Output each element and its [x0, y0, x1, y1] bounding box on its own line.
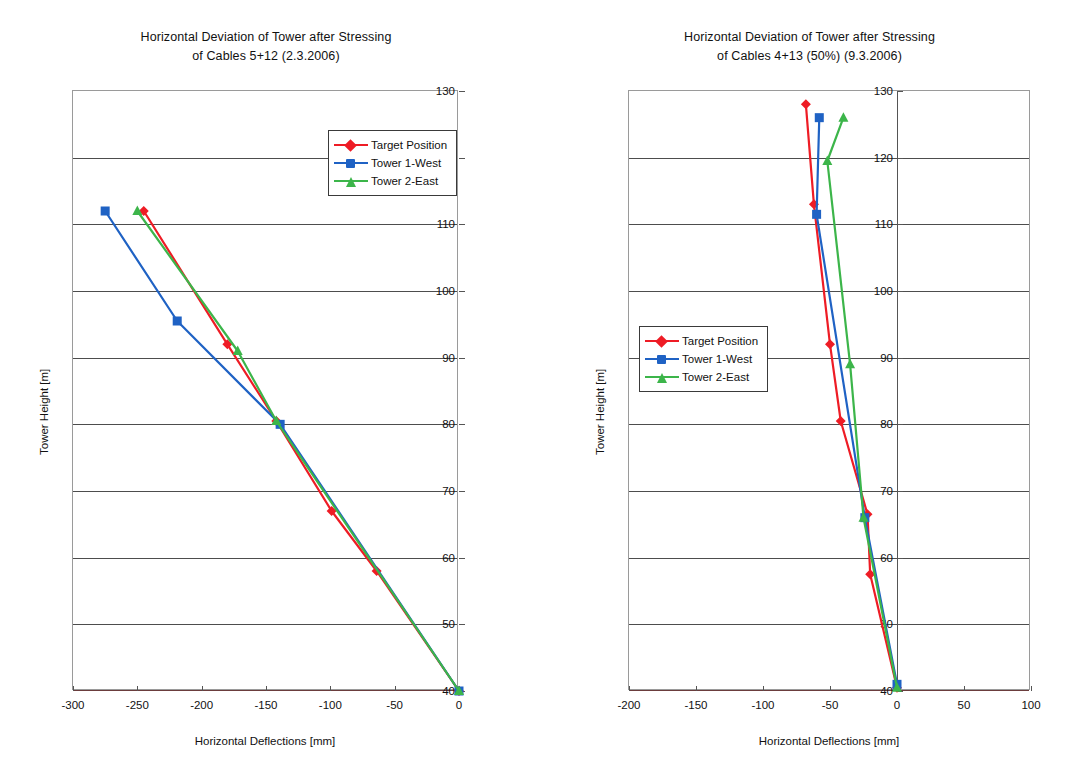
y-tick-90	[459, 358, 465, 359]
data-point	[822, 156, 832, 166]
data-point	[815, 113, 824, 122]
x-tick-label--50: -50	[822, 699, 839, 711]
x-tick-label-0: 0	[456, 699, 462, 711]
y-tick-110	[459, 224, 465, 225]
y-tick-100	[459, 291, 465, 292]
x-axis-title-right: Horizontal Deflections [mm]	[628, 735, 1030, 747]
legend-item-tower-1-west[interactable]: Tower 1-West	[334, 154, 447, 172]
figure-container: Horizontal Deviation of Tower after Stre…	[0, 0, 1065, 779]
plot-area-left: -300-250-200-150-100-5004050607080901001…	[72, 90, 458, 690]
chart-title-right-line2: of Cables 4+13 (50%) (9.3.2006)	[554, 47, 1065, 66]
chart-title-right: Horizontal Deviation of Tower after Stre…	[554, 28, 1065, 66]
y-tick-130	[459, 91, 465, 92]
chart-legend[interactable]: Target PositionTower 1-WestTower 2-East	[328, 130, 457, 196]
legend-item-target-position[interactable]: Target Position	[645, 332, 758, 350]
chart-title-left-line1: Horizontal Deviation of Tower after Stre…	[0, 28, 532, 47]
data-point	[801, 99, 811, 109]
x-tick-label--200: -200	[190, 699, 213, 711]
data-point	[836, 416, 846, 426]
data-point	[812, 210, 821, 219]
x-axis-title-left: Horizontal Deflections [mm]	[72, 735, 458, 747]
x-tick-label--100: -100	[751, 699, 774, 711]
y-axis-title-left: Tower Height [m]	[38, 369, 50, 455]
legend-label: Target Position	[682, 333, 758, 350]
data-point	[845, 359, 855, 369]
x-tick-100	[1031, 686, 1032, 691]
chart-title-left: Horizontal Deviation of Tower after Stre…	[0, 28, 532, 66]
x-tick-label--300: -300	[61, 699, 84, 711]
x-tick-label-100: 100	[1021, 699, 1040, 711]
x-tick-label--100: -100	[319, 699, 342, 711]
legend-item-tower-1-west[interactable]: Tower 1-West	[645, 350, 758, 368]
series-line-tower-1-west	[105, 211, 459, 691]
legend-triangle-icon	[645, 370, 679, 384]
x-tick-label--200: -200	[617, 699, 640, 711]
legend-square-icon	[334, 156, 368, 170]
x-tick-label--150: -150	[254, 699, 277, 711]
y-axis-title-right: Tower Height [m]	[594, 369, 606, 455]
legend-label: Target Position	[371, 137, 447, 154]
y-tick-60	[459, 558, 465, 559]
legend-label: Tower 2-East	[371, 173, 438, 190]
legend-square-icon	[645, 352, 679, 366]
x-tick-label-0: 0	[894, 699, 900, 711]
x-tick-label--150: -150	[684, 699, 707, 711]
y-tick-120	[459, 158, 465, 159]
legend-label: Tower 1-West	[371, 155, 441, 172]
y-tick-70	[459, 491, 465, 492]
chart-legend[interactable]: Target PositionTower 1-WestTower 2-East	[639, 326, 768, 392]
data-point	[838, 112, 848, 122]
data-point	[825, 339, 835, 349]
legend-label: Tower 1-West	[682, 351, 752, 368]
legend-label: Tower 2-East	[682, 369, 749, 386]
series-line-tower-1-west	[817, 118, 897, 685]
series-line-target-position	[806, 104, 897, 687]
chart-title-right-line1: Horizontal Deviation of Tower after Stre…	[554, 28, 1065, 47]
legend-diamond-icon	[334, 138, 368, 152]
x-tick-label-50: 50	[958, 699, 971, 711]
legend-triangle-icon	[334, 174, 368, 188]
plot-area-right: -200-150-100-500501004050607080901001101…	[628, 90, 1030, 690]
x-tick-label--250: -250	[126, 699, 149, 711]
legend-diamond-icon	[645, 334, 679, 348]
legend-item-tower-2-east[interactable]: Tower 2-East	[645, 368, 758, 386]
chart-panel-right: Horizontal Deviation of Tower after Stre…	[532, 0, 1065, 779]
data-point	[101, 207, 110, 216]
y-tick-80	[459, 424, 465, 425]
legend-item-tower-2-east[interactable]: Tower 2-East	[334, 172, 447, 190]
chart-title-left-line2: of Cables 5+12 (2.3.2006)	[0, 47, 532, 66]
data-point	[173, 317, 182, 326]
legend-item-target-position[interactable]: Target Position	[334, 136, 447, 154]
x-tick-label--50: -50	[386, 699, 403, 711]
y-tick-50	[459, 624, 465, 625]
chart-panel-left: Horizontal Deviation of Tower after Stre…	[0, 0, 532, 779]
